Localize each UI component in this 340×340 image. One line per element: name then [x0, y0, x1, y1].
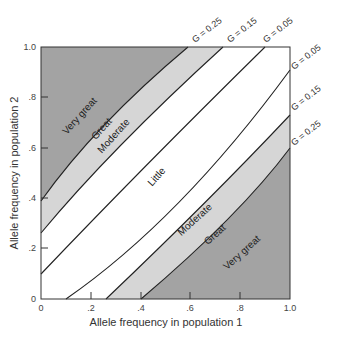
g-label-top-025: G = 0.25 [190, 15, 224, 44]
y-tick-2: .4 [28, 193, 36, 203]
y-tick-0: 0 [31, 294, 36, 304]
x-tick-4: .8 [236, 303, 244, 313]
x-tick-0: 0 [38, 303, 43, 313]
g-label-top-005: G = 0.05 [261, 15, 295, 44]
x-tick-2: .4 [137, 303, 145, 313]
g-label-right-015: G = 0.15 [289, 83, 323, 112]
y-tick-3: .6 [28, 143, 36, 153]
x-tick-1: .2 [87, 303, 95, 313]
y-tick-5: 1.0 [23, 42, 36, 52]
differentiation-chart: 0 .2 .4 .6 .8 1.0 0 .2 .4 .6 .8 1.0 Alle… [0, 0, 340, 340]
x-tick-5: 1.0 [284, 303, 297, 313]
x-tick-3: .6 [186, 303, 194, 313]
x-axis-title: Allele frequency in population 1 [90, 316, 243, 328]
y-axis-title: Allele frequency in population 2 [8, 97, 20, 250]
y-tick-4: .8 [28, 92, 36, 102]
y-tick-1: .2 [28, 243, 36, 253]
g-label-top-015: G = 0.15 [225, 15, 259, 44]
g-label-right-005: G = 0.05 [289, 42, 323, 71]
g-label-right-025: G = 0.25 [289, 118, 323, 147]
